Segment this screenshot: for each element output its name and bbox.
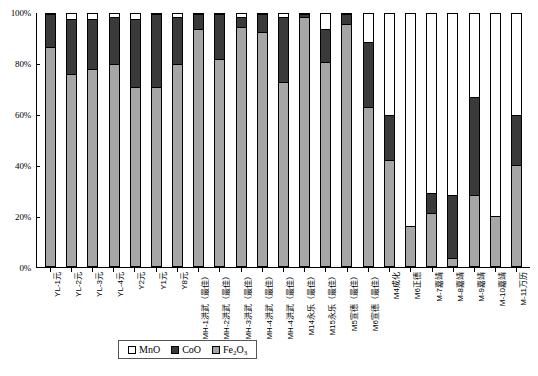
bar-segment-coo bbox=[512, 115, 521, 165]
y-axis: 0%20%40%60%80%100% bbox=[0, 0, 36, 282]
bar-segment-fe2o3 bbox=[321, 62, 330, 266]
bar-segment-coo bbox=[448, 195, 457, 258]
gray-square-icon bbox=[212, 346, 220, 354]
plot-area bbox=[36, 13, 530, 268]
y-axis-tick-label: 20% bbox=[15, 212, 31, 222]
stacked-bar[interactable] bbox=[193, 13, 204, 267]
bar-segment-fe2o3 bbox=[491, 216, 500, 266]
bar-slot bbox=[231, 13, 252, 267]
bar-segment-fe2o3 bbox=[364, 107, 373, 266]
stacked-bar[interactable] bbox=[511, 13, 522, 267]
x-label-slot: M-8嘉靖 bbox=[442, 272, 463, 328]
x-label-slot: M15永乐（最佳） bbox=[315, 272, 336, 328]
stacked-bar[interactable] bbox=[45, 13, 56, 267]
stacked-bar[interactable] bbox=[236, 13, 247, 267]
chart-legend: MnO CoO Fe2O3 bbox=[118, 340, 257, 359]
bars-container bbox=[37, 13, 530, 267]
x-label-slot: M4成化 bbox=[379, 272, 400, 328]
bar-slot bbox=[40, 13, 61, 267]
bar-segment-coo bbox=[364, 42, 373, 108]
bar-segment-fe2o3 bbox=[67, 74, 76, 266]
stacked-bar[interactable] bbox=[130, 13, 141, 267]
stacked-bar[interactable] bbox=[426, 13, 437, 267]
bar-segment-fe2o3 bbox=[173, 64, 182, 266]
bar-segment-coo bbox=[110, 17, 119, 65]
x-label-slot: YL-1元 bbox=[39, 272, 60, 328]
bar-slot bbox=[442, 13, 463, 267]
stacked-bar[interactable] bbox=[405, 13, 416, 267]
x-label-slot: Y2元 bbox=[124, 272, 145, 328]
bar-segment-mno bbox=[364, 14, 373, 42]
x-label-slot: MH-4洪武（最佳） bbox=[272, 272, 293, 328]
stacked-bar[interactable] bbox=[299, 13, 310, 267]
x-label-slot: Y8元 bbox=[166, 272, 187, 328]
black-square-icon bbox=[171, 346, 179, 354]
bar-segment-fe2o3 bbox=[131, 87, 140, 266]
bar-segment-coo bbox=[342, 14, 351, 24]
stacked-bar[interactable] bbox=[384, 13, 395, 267]
stacked-bar[interactable] bbox=[257, 13, 268, 267]
bar-segment-fe2o3 bbox=[406, 226, 415, 266]
stacked-bar[interactable] bbox=[151, 13, 162, 267]
bar-slot bbox=[379, 13, 400, 267]
y-axis-tick-label: 100% bbox=[11, 8, 31, 18]
bar-segment-fe2o3 bbox=[342, 24, 351, 266]
x-label-slot: YL-2元 bbox=[60, 272, 81, 328]
bar-segment-fe2o3 bbox=[470, 195, 479, 266]
legend-item-coo: CoO bbox=[171, 344, 201, 355]
bar-segment-fe2o3 bbox=[88, 69, 97, 266]
bar-slot bbox=[125, 13, 146, 267]
stacked-bar[interactable] bbox=[341, 13, 352, 267]
y-axis-tick-label: 80% bbox=[15, 59, 31, 69]
bar-segment-coo bbox=[215, 14, 224, 59]
bar-segment-coo bbox=[67, 19, 76, 74]
bar-segment-mno bbox=[470, 14, 479, 97]
white-square-icon bbox=[128, 346, 136, 354]
bar-segment-mno bbox=[321, 14, 330, 29]
x-axis-tick-label: M-11万历 bbox=[519, 272, 528, 306]
bar-slot bbox=[209, 13, 230, 267]
legend-label-mno: MnO bbox=[139, 344, 160, 355]
stacked-bar[interactable] bbox=[320, 13, 331, 267]
bar-slot bbox=[400, 13, 421, 267]
bar-segment-fe2o3 bbox=[194, 29, 203, 266]
stacked-bar[interactable] bbox=[214, 13, 225, 267]
x-label-slot: MH-2洪武（最佳） bbox=[209, 272, 230, 328]
x-label-slot: YL-3元 bbox=[81, 272, 102, 328]
bar-segment-mno bbox=[512, 14, 521, 115]
bar-slot bbox=[82, 13, 103, 267]
stacked-bar-chart: 0%20%40%60%80%100% YL-1元YL-2元YL-3元YL-4元Y… bbox=[0, 0, 538, 376]
bar-segment-coo bbox=[173, 17, 182, 65]
bar-slot bbox=[506, 13, 527, 267]
bar-segment-coo bbox=[46, 14, 55, 47]
stacked-bar[interactable] bbox=[172, 13, 183, 267]
stacked-bar[interactable] bbox=[278, 13, 289, 267]
bar-slot bbox=[485, 13, 506, 267]
bar-segment-fe2o3 bbox=[427, 213, 436, 266]
stacked-bar[interactable] bbox=[447, 13, 458, 267]
bar-segment-fe2o3 bbox=[258, 32, 267, 266]
bar-slot bbox=[273, 13, 294, 267]
bar-segment-mno bbox=[406, 14, 415, 226]
bar-segment-coo bbox=[152, 14, 161, 87]
x-label-slot: MH-4洪武（最佳） bbox=[251, 272, 272, 328]
bar-segment-mno bbox=[491, 14, 500, 216]
stacked-bar[interactable] bbox=[66, 13, 77, 267]
x-label-slot: MH-3洪武（最佳） bbox=[230, 272, 251, 328]
bar-segment-fe2o3 bbox=[300, 17, 309, 266]
y-axis-tick-label: 60% bbox=[15, 110, 31, 120]
x-label-slot: Y1元 bbox=[145, 272, 166, 328]
stacked-bar[interactable] bbox=[363, 13, 374, 267]
x-axis-labels: YL-1元YL-2元YL-3元YL-4元Y2元Y1元Y8元MH-1洪武（最佳）M… bbox=[36, 272, 530, 328]
bar-slot bbox=[463, 13, 484, 267]
stacked-bar[interactable] bbox=[87, 13, 98, 267]
stacked-bar[interactable] bbox=[109, 13, 120, 267]
bar-segment-mno bbox=[448, 14, 457, 195]
bar-segment-fe2o3 bbox=[279, 82, 288, 266]
bar-segment-fe2o3 bbox=[512, 165, 521, 266]
x-label-slot: M-11万历 bbox=[506, 272, 527, 328]
bar-slot bbox=[146, 13, 167, 267]
stacked-bar[interactable] bbox=[490, 13, 501, 267]
stacked-bar[interactable] bbox=[469, 13, 480, 267]
bar-slot bbox=[358, 13, 379, 267]
